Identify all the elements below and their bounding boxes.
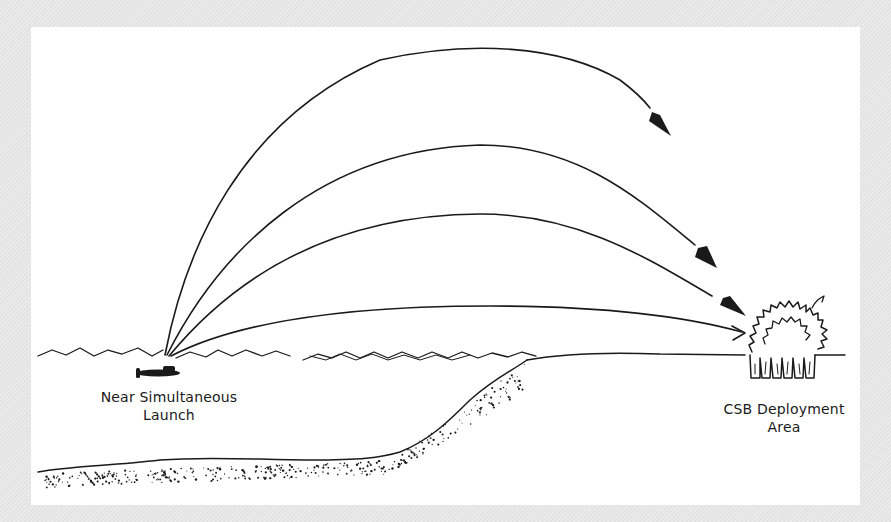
sediment-dot bbox=[126, 481, 128, 483]
sediment-dot bbox=[484, 397, 485, 398]
sediment-dot bbox=[378, 466, 379, 467]
sediment-dot bbox=[505, 388, 506, 389]
sediment-dot bbox=[369, 474, 370, 475]
sediment-dot bbox=[135, 479, 136, 480]
trajectory-2 bbox=[167, 145, 695, 355]
sediment-dot bbox=[337, 474, 339, 476]
sediment-dot bbox=[408, 455, 410, 457]
sediment-dot bbox=[401, 454, 403, 456]
sediment-dot bbox=[437, 444, 439, 446]
sediment-dot bbox=[57, 476, 58, 477]
sediment-dot bbox=[363, 468, 365, 470]
sediment-dot bbox=[493, 406, 495, 408]
sediment-dot bbox=[242, 475, 244, 477]
sediment-dot bbox=[116, 475, 117, 476]
sediment-dot bbox=[170, 480, 172, 482]
sediment-dot bbox=[54, 478, 55, 479]
sediment-dot bbox=[113, 472, 114, 473]
sediment-dot bbox=[376, 462, 378, 464]
sediment-dot bbox=[244, 478, 246, 480]
sediment-dot bbox=[131, 482, 132, 483]
sediment-dot bbox=[299, 470, 301, 472]
sediment-dot bbox=[283, 476, 285, 478]
sediment-dot bbox=[442, 434, 444, 436]
sediment-dot bbox=[153, 476, 155, 478]
sediment-dot bbox=[289, 469, 291, 471]
sediment-dot bbox=[255, 465, 257, 467]
sediment-dot bbox=[295, 471, 297, 473]
sediment-dot bbox=[427, 439, 429, 441]
sediment-dot bbox=[192, 471, 194, 473]
sediment-dot bbox=[270, 472, 272, 474]
sediment-dot bbox=[484, 395, 486, 397]
sediment-dot bbox=[169, 476, 170, 477]
sediment-dot bbox=[370, 464, 372, 466]
sediment-dot bbox=[515, 382, 516, 383]
sediment-dot bbox=[403, 460, 405, 462]
sediment-dot bbox=[105, 481, 107, 483]
sediment-dot bbox=[157, 472, 159, 474]
sediment-dot bbox=[476, 400, 478, 402]
sediment-dot bbox=[416, 454, 417, 455]
sediment-dot bbox=[69, 477, 71, 479]
sediment-dot bbox=[203, 467, 204, 468]
sediment-dot bbox=[255, 471, 257, 473]
sediment-dot bbox=[165, 476, 167, 478]
sediment-dot bbox=[177, 473, 178, 474]
sediment-dot bbox=[509, 378, 511, 380]
sediment-dot bbox=[205, 474, 207, 476]
sediment-dot bbox=[90, 482, 91, 483]
sediment-dot bbox=[477, 410, 479, 412]
sediment-dot bbox=[116, 473, 117, 474]
sediment-dot bbox=[365, 470, 367, 472]
sediment-dot bbox=[491, 387, 493, 389]
sediment-dot bbox=[121, 483, 123, 485]
sediment-dot bbox=[313, 469, 314, 470]
sediment-dot bbox=[378, 460, 380, 462]
sediment-dot bbox=[510, 397, 511, 398]
sediment-dot bbox=[318, 467, 319, 468]
sediment-dot bbox=[46, 482, 47, 483]
sediment-dot bbox=[381, 468, 383, 470]
sediment-dot bbox=[107, 475, 109, 477]
sediment-dot bbox=[238, 477, 240, 479]
sediment-dot bbox=[293, 469, 294, 470]
sediment-dot bbox=[405, 462, 407, 464]
sediment-dot bbox=[84, 472, 86, 474]
sediment-dot bbox=[152, 474, 153, 475]
sediment-dot bbox=[347, 466, 348, 467]
sediment-dot bbox=[269, 466, 271, 468]
sediment-dot bbox=[475, 405, 476, 406]
sediment-dot bbox=[411, 452, 413, 454]
sediment-dot bbox=[485, 393, 486, 394]
sediment-dot bbox=[244, 475, 246, 477]
sediment-dot bbox=[164, 470, 166, 472]
sediment-dot bbox=[388, 469, 389, 470]
sediment-dot bbox=[280, 469, 282, 471]
sediment-dot bbox=[215, 472, 217, 474]
sediment-dot bbox=[286, 472, 287, 473]
sediment-dot bbox=[243, 470, 245, 472]
sediment-dot bbox=[391, 467, 393, 469]
sediment-dot bbox=[152, 482, 153, 483]
sediment-dot bbox=[67, 482, 68, 483]
sediment-dot bbox=[488, 402, 490, 404]
sediment-dot bbox=[370, 470, 372, 472]
submarine-icon bbox=[136, 366, 180, 378]
sediment-dot bbox=[381, 471, 382, 472]
sediment-dot bbox=[430, 437, 432, 439]
sediment-dot bbox=[279, 468, 280, 469]
sediment-dot bbox=[414, 454, 415, 455]
sediment-dot bbox=[399, 464, 401, 466]
sediment-dot bbox=[134, 481, 136, 483]
sediment-dot bbox=[422, 453, 423, 454]
arrowhead-icon bbox=[732, 326, 745, 340]
sediment-dot bbox=[457, 429, 458, 430]
sediment-dot bbox=[98, 476, 100, 478]
sediment-dot bbox=[195, 478, 197, 480]
sediment-dot bbox=[168, 477, 169, 478]
sediment-dot bbox=[265, 471, 267, 473]
sediment-dot bbox=[269, 478, 270, 479]
diagram-canvas bbox=[0, 0, 891, 522]
sediment-dot bbox=[325, 464, 327, 466]
